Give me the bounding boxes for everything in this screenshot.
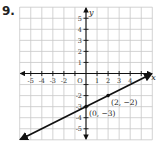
y-axis-label: y [88,8,94,17]
y-tick-label: 2 [78,48,82,56]
y-tick-label: 3 [78,37,82,45]
y-tick-label: -5 [76,125,82,133]
y-tick-label: 5 [78,15,82,23]
y-tick-label: 1 [78,59,82,67]
point-marker [106,94,110,98]
x-tick-label: -4 [39,77,45,85]
point-label: (0, −3) [89,109,116,118]
x-tick-label: O [77,77,82,85]
axes [21,8,152,139]
x-axis-label: x [151,73,156,82]
x-tick-label: -3 [50,77,56,85]
x-tick-label: 2 [106,77,110,85]
point-label: (2, −2) [111,98,138,107]
x-tick-label: -2 [61,77,67,85]
point-marker [84,105,88,109]
x-tick-label: 3 [117,77,121,85]
y-tick-label: -2 [76,92,82,100]
y-tick-label: 4 [78,26,82,34]
labeled-points: (0, −3)(2, −2) [84,94,137,118]
y-tick-label: -4 [76,114,82,122]
x-tick-label: 1 [95,77,99,85]
x-tick-label: -5 [28,77,34,85]
coordinate-graph: -5-4-3-2O123454321-2-3-4-5xy (0, −3)(2, … [0,0,163,144]
